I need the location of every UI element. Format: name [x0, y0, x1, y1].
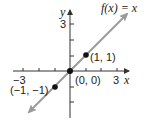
point-one-one [83, 52, 89, 58]
y-axis-label: y [59, 5, 66, 19]
function-line [29, 14, 127, 112]
x-tick-label-3: 3 [113, 74, 119, 86]
x-axis-label: x [123, 73, 130, 87]
point-origin [67, 68, 73, 74]
point-label-origin: (0, 0) [75, 74, 101, 86]
point-label-one-one: (1, 1) [90, 51, 116, 63]
function-label: f(x) = x [101, 1, 138, 15]
y-axis-ticks [70, 24, 74, 102]
point-neg-one-neg-one [52, 84, 58, 90]
y-axis [70, 10, 74, 118]
point-label-neg-one: (−1, −1) [10, 84, 49, 96]
y-tick-label-3: 3 [60, 18, 66, 30]
function-graph: f(x) = x y 3 −3 3 x (0, 0) (1, 1) (−1, −… [0, 0, 146, 120]
